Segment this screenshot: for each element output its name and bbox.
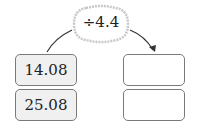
- output-box-1[interactable]: [123, 54, 185, 86]
- output-box-2[interactable]: [123, 89, 185, 121]
- input-box-2: 25.08: [15, 89, 77, 121]
- incoming-arc: [47, 30, 72, 52]
- input-box-1: 14.08: [15, 54, 77, 86]
- operation-label: ÷4.4: [72, 13, 130, 31]
